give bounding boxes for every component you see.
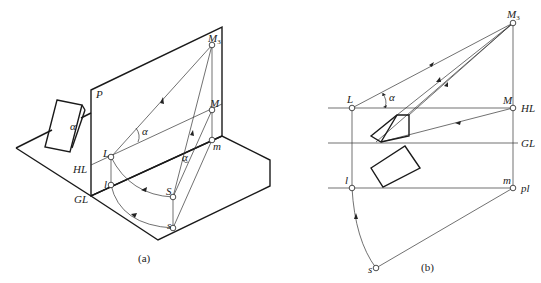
- block-perspective: [371, 115, 409, 142]
- arc-l-s: [352, 188, 376, 268]
- caption-b: (b): [421, 261, 434, 274]
- arrow: [190, 130, 194, 136]
- label-GL: GL: [521, 137, 535, 149]
- perspective-diagram: P M3 M m L l S s HL GL α α α (a): [0, 0, 541, 283]
- label-l: l: [104, 178, 107, 190]
- label-M3: M3: [207, 32, 221, 46]
- label-M3: M3: [506, 8, 520, 22]
- arrow: [160, 97, 164, 104]
- ray-block-M3-3: [376, 23, 513, 142]
- label-M: M: [209, 97, 220, 109]
- label-alpha: α: [389, 91, 395, 103]
- label-M: M: [502, 94, 513, 106]
- arc-l-s: [111, 185, 173, 228]
- label-L: L: [102, 147, 109, 159]
- label-alpha-picture: α: [142, 125, 148, 137]
- caption-a: (a): [138, 252, 151, 265]
- block-edge: [82, 105, 85, 110]
- point-M: [510, 105, 516, 111]
- arrow: [455, 121, 461, 125]
- label-l: l: [345, 174, 348, 186]
- block-edge: [381, 115, 397, 142]
- figure-b: M3 L M HL GL l m pl s α (b): [328, 8, 535, 275]
- point-M3: [510, 20, 516, 26]
- arrow: [436, 77, 441, 82]
- label-L: L: [346, 93, 353, 105]
- point-s: [373, 265, 379, 271]
- point-L: [349, 105, 355, 111]
- label-HL: HL: [72, 163, 87, 175]
- point-l: [349, 185, 355, 191]
- ray-block-M3: [397, 23, 513, 115]
- point-l: [108, 182, 114, 188]
- label-m: m: [213, 140, 221, 152]
- arrow: [429, 62, 434, 67]
- arrow: [131, 213, 137, 218]
- label-m: m: [503, 174, 511, 186]
- ground-plane-outline: [16, 136, 270, 240]
- label-s: s: [368, 263, 372, 275]
- ray-S-M3: [173, 45, 212, 197]
- figure-a: P M3 M m L l S s HL GL α α α (a): [16, 27, 270, 265]
- label-alpha-block: α: [70, 120, 76, 132]
- block-plan: [371, 146, 420, 187]
- alpha-arc: [136, 128, 139, 142]
- label-alpha-station: α: [182, 151, 188, 163]
- label-s: s: [167, 219, 171, 231]
- ray-block-M: [381, 108, 513, 142]
- line-m-s: [376, 188, 513, 268]
- label-pl: pl: [520, 182, 530, 194]
- alpha-arrow: [383, 105, 387, 108]
- point-m: [510, 185, 516, 191]
- block-front: [45, 100, 82, 152]
- label-HL: HL: [520, 102, 535, 114]
- label-GL: GL: [74, 193, 88, 205]
- label-plane-P: P: [95, 88, 103, 100]
- label-S: S: [166, 185, 172, 197]
